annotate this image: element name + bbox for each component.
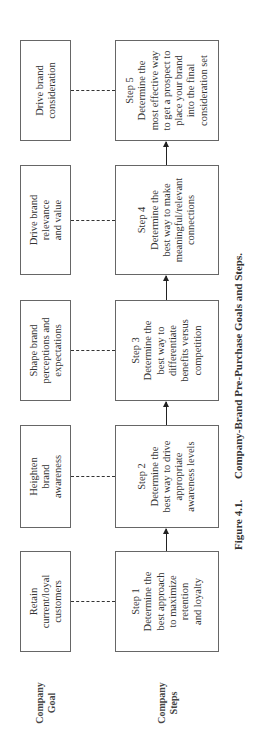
step-line: consideration set — [198, 51, 210, 131]
dashed-connector-1 — [71, 601, 115, 602]
arrow-icon — [166, 142, 167, 165]
goal-line: perceptions and — [40, 317, 52, 383]
goal-box-2: Heightenbrandawareness — [20, 425, 71, 528]
step-box-3: Step 3Determine thebest way todifferenti… — [115, 300, 219, 401]
step-line: place your brand — [173, 51, 185, 131]
step-line: most effective way — [149, 51, 161, 131]
goal-line: consideration — [46, 62, 58, 119]
dashed-connector-4 — [71, 220, 115, 221]
step-line: meaningful/relevant — [173, 178, 185, 263]
step-box-5: Step 5Determine themost effective wayto … — [115, 40, 219, 141]
goal-line: and value — [52, 195, 64, 245]
arrow-icon — [166, 402, 167, 425]
dashed-connector-2 — [71, 476, 115, 477]
step-line: competition — [192, 319, 204, 382]
step-line: Determine the — [142, 319, 154, 382]
step-line: best approach — [155, 572, 167, 632]
step-line: differentiate — [167, 319, 179, 382]
step-line: retention — [179, 572, 191, 632]
step-title: Step 4 — [136, 178, 148, 263]
row-label-steps: Company Steps — [156, 673, 180, 733]
step-line: Determine the — [136, 51, 148, 131]
figure-title: Company-Brand Pre-Purchase Goals and Ste… — [232, 253, 244, 479]
goal-line: awareness — [52, 455, 64, 498]
step-line: benefits versus — [179, 319, 191, 382]
goal-line: customers — [52, 575, 64, 629]
row-label-goal-line: Goal — [46, 673, 58, 733]
step-title: Step 2 — [136, 440, 148, 512]
step-title: Step 5 — [124, 51, 136, 131]
figure-number: Figure 4.1. — [232, 500, 244, 550]
dashed-connector-3 — [71, 350, 115, 351]
figure-caption: Figure 4.1. Company-Brand Pre-Purchase G… — [232, 253, 244, 550]
row-label-steps-line: Steps — [168, 673, 180, 733]
goal-line: Drive brand — [28, 195, 40, 245]
arrow-icon — [166, 529, 167, 551]
step-line: connections — [185, 178, 197, 263]
goal-box-1: Retaincurrent/loyalcustomers — [20, 551, 71, 652]
step-line: best way to make — [161, 178, 173, 263]
step-line: and loyalty — [192, 572, 204, 632]
goal-line: brand — [40, 455, 52, 498]
goal-box-4: Drive brandrelevanceand value — [20, 165, 71, 275]
goal-line: Retain — [28, 575, 40, 629]
row-label-goal: Company Goal — [34, 673, 58, 733]
goal-line: relevance — [40, 195, 52, 245]
step-box-4: Step 4Determine thebest way to makemeani… — [115, 165, 219, 275]
step-line: best way to — [155, 319, 167, 382]
step-line: to get a prospect to — [161, 51, 173, 131]
step-line: best way to drive — [161, 440, 173, 512]
arrow-icon — [166, 276, 167, 300]
step-box-2: Step 2Determine thebest way to driveappr… — [115, 425, 219, 528]
step-line: Determine the — [149, 178, 161, 263]
step-line: appropriate — [173, 440, 185, 512]
row-label-goal-line: Company — [34, 673, 46, 733]
row-label-steps-line: Company — [156, 673, 168, 733]
step-title: Step 3 — [130, 319, 142, 382]
step-line: Determine the — [142, 572, 154, 632]
goal-line: Heighten — [28, 455, 40, 498]
step-title: Step 1 — [130, 572, 142, 632]
goal-line: Shape brand — [28, 317, 40, 383]
diagram-stage: Company Goal Company Steps Retaincurrent… — [0, 0, 254, 741]
step-box-1: Step 1Determine thebest approachto maxim… — [115, 551, 219, 652]
goal-line: expectations — [52, 317, 64, 383]
step-line: into the final — [185, 51, 197, 131]
goal-line: Drive brand — [34, 62, 46, 119]
goal-box-3: Shape brandperceptions andexpectations — [20, 300, 71, 401]
dashed-connector-5 — [71, 90, 115, 91]
goal-line: current/loyal — [40, 575, 52, 629]
step-line: awareness levels — [185, 440, 197, 512]
step-line: to maximize — [167, 572, 179, 632]
step-line: Determine the — [149, 440, 161, 512]
goal-box-5: Drive brandconsideration — [20, 40, 71, 141]
